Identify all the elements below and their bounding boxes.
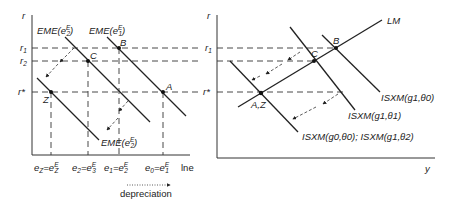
- x-tick-e1: e1=eE2: [104, 161, 129, 174]
- x-tick-e2: e2=eE3: [72, 161, 97, 174]
- right-shift-arrow-1: [288, 52, 300, 60]
- point-az: [259, 91, 263, 95]
- eme-e2-lower-label: EME(eE2): [101, 136, 137, 149]
- left-y-axis-label: r: [22, 10, 26, 21]
- right-x-axis-label: y: [424, 163, 431, 174]
- eme-e2-upper-curve: [65, 37, 150, 122]
- right-rstar-label: r*: [203, 86, 210, 97]
- right-r1-label: r1: [205, 42, 212, 54]
- eme-e1-label: EME(eE1): [89, 24, 125, 37]
- left-shift-arrow-3: [119, 101, 128, 111]
- depreciation-label: depreciation: [120, 188, 172, 199]
- isxm-g0-theta0-curve: [230, 61, 298, 132]
- right-shift-arrow-5: [293, 107, 316, 119]
- point-b-left-label: B: [120, 37, 127, 48]
- isxm-g1-theta1-curve: [290, 27, 355, 110]
- left-panel: r r1 r2 r* EME(eE2) EME(eE1) EME(eE2) Z: [18, 10, 200, 199]
- x-tick-ez: eZ=eEZ: [34, 161, 59, 174]
- isxm-g1-theta1-label: ISXM(g1,θ1): [348, 110, 401, 121]
- point-c-right: [312, 59, 316, 63]
- left-shift-arrow-4: [107, 118, 118, 130]
- left-r1-label: r1: [20, 42, 27, 54]
- point-az-label: A,Z: [250, 99, 267, 110]
- right-shift-arrow-4: [323, 94, 338, 104]
- isxm-g1-theta0-curve: [322, 35, 380, 92]
- point-z-label: Z: [42, 94, 50, 105]
- left-shift-arrow-2: [46, 64, 58, 77]
- point-c-left-label: C: [90, 50, 97, 61]
- eme-e2-upper-label: EME(eE2): [37, 24, 73, 37]
- left-rstar-label: r*: [18, 86, 25, 97]
- point-a-left: [161, 90, 165, 94]
- point-c-right-label: C: [311, 48, 318, 59]
- isxm-g1-theta0-label: ISXM(g1,θ0): [381, 92, 434, 103]
- isxm-g0-theta0-label: ISXM(g0,θ0); ISXM(g1,θ2): [302, 131, 414, 142]
- right-shift-arrow-3: [252, 76, 260, 80]
- x-tick-e0: e0=eE1: [145, 161, 170, 174]
- left-shift-arrow-1: [60, 48, 74, 62]
- right-shift-arrow-2: [266, 64, 282, 74]
- left-x-axis-label: lne: [181, 162, 194, 173]
- point-b-right-label: B: [333, 35, 340, 46]
- lm-label: LM: [387, 15, 400, 26]
- point-z: [49, 90, 53, 94]
- point-a-left-label: A: [165, 81, 172, 92]
- eme-e2-lower-curve: [37, 78, 99, 140]
- point-b-right: [334, 46, 338, 50]
- right-panel: r y r1 r* LM ISXM(g1,θ0) ISXM(g1,θ1) ISX…: [203, 10, 435, 174]
- left-r2-label: r2: [20, 55, 27, 67]
- right-y-axis-label: r: [207, 10, 211, 21]
